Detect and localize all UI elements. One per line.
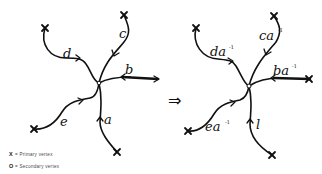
edge-label-ba: ba -1 (273, 63, 297, 78)
secondary-vertex-icon (97, 81, 101, 85)
edge-label-ea: ea -1 (205, 119, 230, 134)
svg-text:ca: ca (259, 28, 274, 43)
edge-label-d: d (63, 46, 71, 61)
edge-label-a: a (104, 112, 112, 127)
edge-l (249, 86, 272, 155)
svg-text:ea: ea (205, 119, 220, 134)
legend-primary-symbol: X (9, 151, 13, 157)
edge-d (44, 28, 99, 83)
edge-label-c: c (119, 26, 127, 41)
edge-label-e: e (60, 114, 68, 129)
svg-text:-1: -1 (278, 27, 283, 33)
legend-primary-text: = Primary vertex (15, 152, 53, 157)
svg-text:-1: -1 (229, 44, 234, 50)
implies-arrow-icon: ⇒ (168, 91, 181, 110)
legend-secondary-symbol: O (9, 163, 14, 169)
svg-text:-1: -1 (225, 119, 230, 125)
left-graph: c d b e a (31, 12, 159, 155)
edge-label-da: da -1 (210, 44, 234, 59)
svg-text:ba: ba (273, 63, 289, 78)
edge-label-l: l (256, 117, 260, 132)
diagram-canvas: c d b e a ⇒ ca -1 (0, 0, 322, 174)
edge-label-b: b (125, 62, 133, 77)
right-graph: ca -1 da -1 ba -1 ea -1 l (185, 13, 312, 158)
svg-text:da: da (210, 44, 226, 59)
primary-vertex-icon (271, 13, 277, 19)
legend: X = Primary vertex O = Secondary vertex (9, 151, 60, 169)
primary-vertex-icon (269, 152, 275, 158)
secondary-vertex-icon (247, 84, 251, 88)
svg-text:-1: -1 (292, 63, 297, 69)
legend-secondary-text: = Secondary vertex (15, 164, 60, 169)
primary-vertex-icon (114, 149, 120, 155)
